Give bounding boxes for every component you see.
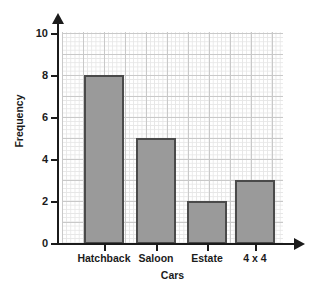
y-axis-line	[57, 22, 59, 245]
bar-hatchback	[84, 75, 124, 244]
x-category-label-saloon: Saloon	[128, 252, 184, 264]
y-tick-mark	[51, 159, 58, 161]
y-axis-title: Frequency	[13, 66, 25, 176]
x-category-label-4x4: 4 x 4	[227, 252, 283, 264]
y-tick-label: 10	[18, 28, 48, 39]
x-axis-arrow-icon	[294, 238, 305, 250]
x-tick-mark	[104, 245, 106, 251]
y-tick-mark	[51, 117, 58, 119]
y-tick-mark	[51, 33, 58, 35]
x-tick-mark	[207, 245, 209, 251]
y-tick-label: 2	[18, 196, 48, 207]
y-tick-mark	[51, 201, 58, 203]
bar-saloon	[136, 138, 176, 244]
x-axis-line	[57, 243, 296, 245]
x-tick-mark	[156, 245, 158, 251]
bar-chart: 0 2 4 6 8 10 Hatchback Saloon Estate 4 x…	[0, 0, 313, 292]
y-tick-mark	[51, 75, 58, 77]
x-axis-title: Cars	[62, 269, 283, 281]
x-tick-mark	[255, 245, 257, 251]
bar-4x4	[235, 180, 275, 244]
y-tick-mark	[51, 243, 58, 245]
y-axis-arrow-icon	[52, 13, 64, 24]
bar-estate	[187, 201, 227, 244]
y-tick-label: 0	[18, 238, 48, 249]
